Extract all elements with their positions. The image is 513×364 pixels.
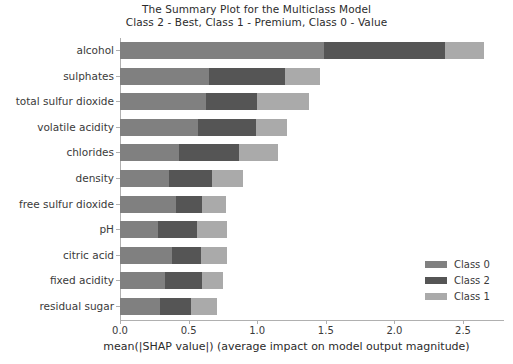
y-tick-label: fixed acidity bbox=[2, 274, 114, 286]
legend-swatch-icon bbox=[425, 293, 447, 300]
bar-segment bbox=[209, 68, 284, 85]
y-tick-label: density bbox=[2, 172, 114, 184]
bar-segment bbox=[120, 68, 209, 85]
bar-segment bbox=[324, 42, 445, 59]
bar-segment bbox=[256, 119, 288, 136]
bar-row bbox=[120, 115, 504, 141]
bar-segment bbox=[160, 298, 192, 315]
x-tick-mark bbox=[120, 320, 121, 324]
bar-track bbox=[120, 93, 309, 110]
bar-segment bbox=[120, 42, 324, 59]
bar-segment bbox=[120, 298, 160, 315]
legend-label: Class 2 bbox=[454, 275, 490, 286]
bar-track bbox=[120, 298, 217, 315]
x-tick-mark bbox=[189, 320, 190, 324]
bar-segment bbox=[120, 196, 176, 213]
bar-segment bbox=[169, 170, 212, 187]
bar-row bbox=[120, 64, 504, 90]
y-tick-label: volatile acidity bbox=[2, 121, 114, 133]
bar-track bbox=[120, 68, 320, 85]
y-tick-label: alcohol bbox=[2, 44, 114, 56]
bar-row bbox=[120, 217, 504, 243]
bar-row bbox=[120, 38, 504, 64]
bar-segment bbox=[197, 221, 227, 238]
bar-row bbox=[120, 89, 504, 115]
y-tick-label: pH bbox=[2, 223, 114, 235]
x-axis-title: mean(|SHAP value|) (average impact on mo… bbox=[60, 340, 513, 353]
legend-label: Class 0 bbox=[454, 259, 490, 270]
bar-segment bbox=[176, 196, 202, 213]
y-tick-label: total sulfur dioxide bbox=[2, 95, 114, 107]
bar-segment bbox=[191, 298, 217, 315]
bar-segment bbox=[120, 272, 165, 289]
bar-segment bbox=[198, 119, 256, 136]
chart-title: The Summary Plot for the Multiclass Mode… bbox=[0, 3, 513, 16]
bar-segment bbox=[179, 144, 239, 161]
chart-subtitle: Class 2 - Best, Class 1 - Premium, Class… bbox=[0, 16, 513, 29]
bar-track bbox=[120, 272, 223, 289]
bar-segment bbox=[120, 93, 206, 110]
bar-track bbox=[120, 42, 484, 59]
bar-segment bbox=[212, 170, 244, 187]
x-tick-label: 1.0 bbox=[237, 325, 277, 336]
bar-track bbox=[120, 119, 287, 136]
bar-segment bbox=[202, 272, 223, 289]
legend-item: Class 0 bbox=[425, 256, 503, 272]
bar-segment bbox=[445, 42, 483, 59]
bar-segment bbox=[120, 221, 158, 238]
bar-row bbox=[120, 140, 504, 166]
legend-item: Class 1 bbox=[425, 288, 503, 304]
y-axis-tick-labels: alcoholsulphatestotal sulfur dioxidevola… bbox=[0, 38, 114, 320]
x-tick-mark bbox=[326, 320, 327, 324]
legend-swatch-icon bbox=[425, 277, 447, 284]
bar-segment bbox=[257, 93, 309, 110]
bar-segment bbox=[120, 144, 179, 161]
x-tick-label: 2.5 bbox=[443, 325, 483, 336]
x-tick-label: 0.5 bbox=[169, 325, 209, 336]
x-tick-label: 1.5 bbox=[306, 325, 346, 336]
legend-label: Class 1 bbox=[454, 291, 490, 302]
x-tick-label: 0.0 bbox=[100, 325, 140, 336]
y-tick-label: residual sugar bbox=[2, 300, 114, 312]
x-tick-mark bbox=[257, 320, 258, 324]
bar-track bbox=[120, 144, 278, 161]
x-tick-label: 2.0 bbox=[374, 325, 414, 336]
bar-segment bbox=[172, 247, 201, 264]
bar-segment bbox=[239, 144, 277, 161]
bar-track bbox=[120, 247, 227, 264]
bar-row bbox=[120, 166, 504, 192]
legend-swatch-icon bbox=[425, 261, 447, 268]
bar-segment bbox=[158, 221, 196, 238]
chart-title-block: The Summary Plot for the Multiclass Mode… bbox=[0, 3, 513, 29]
shap-summary-figure: The Summary Plot for the Multiclass Mode… bbox=[0, 0, 513, 364]
legend-item: Class 2 bbox=[425, 272, 503, 288]
bar-track bbox=[120, 170, 243, 187]
bar-track bbox=[120, 196, 226, 213]
bar-segment bbox=[202, 196, 225, 213]
y-tick-label: free sulfur dioxide bbox=[2, 198, 114, 210]
bar-segment bbox=[201, 247, 227, 264]
x-axis-tick-labels: 0.00.51.01.52.02.5 bbox=[0, 320, 513, 342]
y-tick-label: sulphates bbox=[2, 70, 114, 82]
bar-segment bbox=[120, 247, 172, 264]
y-tick-label: chlorides bbox=[2, 146, 114, 158]
y-tick-label: citric acid bbox=[2, 249, 114, 261]
x-tick-mark bbox=[463, 320, 464, 324]
bar-segment bbox=[120, 119, 198, 136]
x-tick-mark bbox=[394, 320, 395, 324]
bar-segment bbox=[285, 68, 321, 85]
bar-track bbox=[120, 221, 227, 238]
chart-legend: Class 0Class 2Class 1 bbox=[425, 256, 503, 304]
bar-row bbox=[120, 192, 504, 218]
bar-segment bbox=[120, 170, 169, 187]
bar-segment bbox=[206, 93, 257, 110]
bar-segment bbox=[165, 272, 202, 289]
